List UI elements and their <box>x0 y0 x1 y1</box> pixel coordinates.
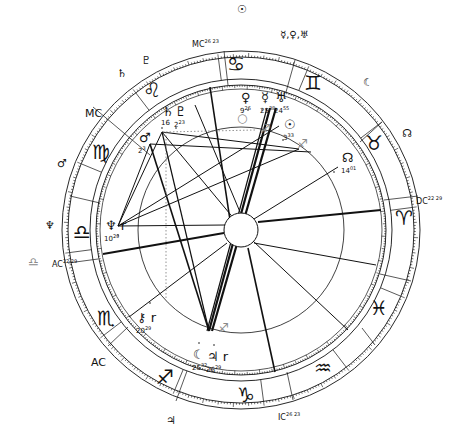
outer-tick <box>366 349 367 350</box>
inner-tick <box>116 303 118 304</box>
inner-tick <box>303 99 304 101</box>
sign-divider <box>261 380 264 402</box>
inner-tick <box>132 134 133 135</box>
outer-tick <box>351 95 352 96</box>
outer-tick <box>353 97 354 98</box>
natal-mars-degree: 23 <box>138 146 146 155</box>
inner-tick <box>107 175 111 177</box>
inner-tick <box>145 121 146 122</box>
outer-tick <box>85 149 88 150</box>
inner-tick <box>122 311 123 312</box>
gray-circle-gray-icon: ○ <box>237 112 247 124</box>
outer-tick <box>392 315 394 316</box>
outer-tick <box>84 310 88 312</box>
outer-tick <box>293 395 294 399</box>
sign-divider <box>218 58 221 80</box>
inner-tick <box>298 361 299 363</box>
aspect-line <box>210 87 230 220</box>
inner-tick <box>346 132 348 134</box>
outer-tick <box>134 367 136 369</box>
axis-mc: MC26 23 <box>192 39 219 49</box>
outer-tick <box>100 126 101 127</box>
inner-tick <box>111 294 113 295</box>
outer-tick <box>83 304 85 305</box>
house-cusp-line <box>362 328 375 345</box>
gray-sagittarius-gray-2-icon: ♐ <box>260 123 271 135</box>
inner-tick <box>120 150 122 151</box>
outer-tick <box>95 134 97 135</box>
natal-jupiter-degree: 2629 <box>206 365 221 374</box>
inner-tick <box>110 292 112 293</box>
outer-tick <box>387 323 391 325</box>
natal-pluto-icon: ♇ <box>175 105 187 118</box>
inner-tick <box>348 134 349 135</box>
inner-tick <box>120 309 122 310</box>
outer-tick <box>400 299 402 300</box>
outer-tick <box>132 93 133 94</box>
inner-tick <box>372 175 375 176</box>
inner-tick <box>141 125 142 126</box>
inner-tick <box>336 337 337 338</box>
planet-marker <box>149 302 151 304</box>
inner-tick <box>305 358 306 360</box>
sign-virgo-icon: ♍ <box>92 142 110 162</box>
aspect-line <box>103 233 224 254</box>
transit-jupiter-icon: ♃ <box>166 415 176 426</box>
inner-tick <box>163 349 165 353</box>
natal-sun-icon: ☉ <box>284 118 296 131</box>
outer-tick <box>392 144 394 145</box>
outer-tick <box>401 163 404 164</box>
inner-tick <box>327 342 330 345</box>
sign-libra-icon: ♎ <box>73 222 91 242</box>
outer-tick <box>394 310 397 311</box>
outer-tick <box>334 81 336 85</box>
inner-tick <box>117 154 119 155</box>
sign-aquarius-icon: ♒ <box>314 358 332 378</box>
sign-gemini-icon: ♊ <box>304 73 322 93</box>
outer-tick <box>130 95 131 96</box>
outer-tick <box>376 121 377 122</box>
inner-tick <box>114 298 116 299</box>
inner-tick <box>122 148 123 149</box>
outer-tick <box>406 282 409 283</box>
natal-saturn-icon: ♄ <box>162 105 174 118</box>
inner-tick <box>179 99 180 101</box>
axis-degree: 22 29 <box>428 195 442 201</box>
outer-tick <box>101 123 103 125</box>
inner-tick <box>359 311 360 312</box>
outer-tick <box>110 345 111 346</box>
outer-tick <box>344 369 345 370</box>
inner-tick <box>314 353 315 355</box>
outer-tick <box>307 66 309 70</box>
outer-tick <box>390 318 392 319</box>
outer-tick <box>385 134 387 135</box>
outer-tick <box>346 90 348 92</box>
outer-tick <box>132 365 133 366</box>
outer-tick <box>83 155 85 156</box>
inner-tick <box>170 355 171 357</box>
inner-tick <box>110 168 112 169</box>
axis-ic: IC26 23 <box>278 412 300 422</box>
outer-tick <box>339 373 340 374</box>
outer-tick <box>116 107 117 108</box>
inner-tick <box>183 361 184 363</box>
outer-tick <box>307 390 308 393</box>
natal-jupiter-icon: ♃ r <box>207 350 228 363</box>
inner-tick <box>103 186 106 187</box>
outer-tick <box>130 363 131 364</box>
outer-tick <box>108 116 109 117</box>
outer-tick <box>349 93 350 94</box>
aspect-line <box>253 241 348 330</box>
outer-tick <box>339 86 340 87</box>
sign-divider <box>81 164 101 172</box>
outer-tick <box>318 385 319 387</box>
outer-tick <box>118 353 119 354</box>
outer-tick <box>218 54 219 58</box>
inner-tick <box>372 172 374 173</box>
inner-tick <box>371 170 373 171</box>
natal-uranus-degree: 2455 <box>274 106 289 115</box>
outer-tick <box>97 131 98 132</box>
inner-tick <box>351 138 352 139</box>
outer-tick <box>324 382 325 384</box>
inner-tick <box>108 287 110 288</box>
